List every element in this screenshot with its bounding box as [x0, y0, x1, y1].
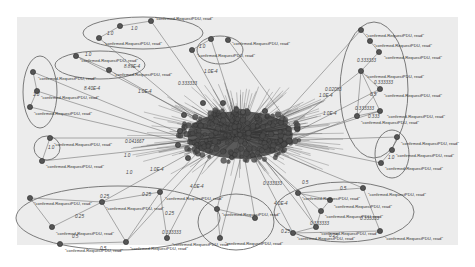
- graph-node[interactable]: [177, 128, 182, 133]
- edge-weight-label: 0.5: [340, 186, 347, 191]
- node-label: "confirmed-RequestPDU, read": [401, 141, 459, 146]
- hub-node: [273, 155, 278, 160]
- graph-node[interactable]: [360, 185, 365, 190]
- hub-node: [275, 139, 279, 143]
- graph-node[interactable]: [208, 36, 213, 41]
- hub-node: [235, 117, 240, 122]
- node-label: "confirmed-RequestPDU, read": [374, 43, 432, 48]
- hub-node: [203, 133, 207, 137]
- hub-node: [206, 144, 210, 148]
- graph-node[interactable]: [117, 23, 122, 28]
- hub-node: [268, 121, 272, 125]
- node-label: "confirmed-RequestPDU, read": [387, 114, 445, 119]
- graph-node[interactable]: [57, 241, 62, 246]
- hub-node: [196, 128, 201, 133]
- edge-weight-label: 1.0: [199, 44, 206, 49]
- graph-node[interactable]: [148, 18, 153, 23]
- hub-node: [220, 149, 226, 155]
- graph-node[interactable]: [262, 108, 267, 113]
- hub-node: [190, 131, 195, 136]
- graph-node[interactable]: [27, 195, 32, 200]
- hub-node: [194, 123, 198, 127]
- node-label: "confirmed-RequestPDU, read": [334, 204, 392, 209]
- edge-weight-label: 0.333333: [360, 216, 380, 221]
- hub-node: [232, 124, 238, 130]
- edge-weight-label: 1.0: [33, 92, 40, 97]
- edge-weight-label: 0.25: [165, 211, 174, 216]
- hub-node: [208, 115, 213, 120]
- graph-node[interactable]: [27, 104, 32, 109]
- graph-node[interactable]: [358, 68, 363, 73]
- graph-node[interactable]: [377, 228, 382, 233]
- hub-node: [232, 130, 237, 135]
- node-label: "confirmed-RequestPDU, read": [38, 76, 96, 81]
- hub-node: [262, 157, 267, 162]
- graph-node[interactable]: [164, 235, 169, 240]
- edge-weight-label: 0.041667: [125, 139, 145, 144]
- graph-node[interactable]: [123, 239, 128, 244]
- graph-node[interactable]: [39, 158, 44, 163]
- graph-node[interactable]: [318, 208, 323, 213]
- hub-node: [240, 155, 244, 159]
- hub-node: [238, 146, 243, 151]
- graph-node[interactable]: [30, 69, 35, 74]
- hub-node: [254, 114, 258, 118]
- edge-weight-label: 8.89E-4: [124, 64, 141, 69]
- node-label: "confirmed-RequestPDU, read": [232, 41, 290, 46]
- hub-node: [184, 131, 190, 137]
- edge-weight-label: 1.0E-4: [150, 167, 164, 172]
- node-label: "confirmed-RequestPDU, read": [54, 142, 112, 147]
- graph-node[interactable]: [220, 100, 225, 105]
- node-label: "confirmed-RequestPDU, read": [297, 236, 355, 241]
- graph-node[interactable]: [181, 112, 186, 117]
- graph-node[interactable]: [295, 190, 300, 195]
- graph-node[interactable]: [377, 86, 382, 91]
- graph-node[interactable]: [240, 109, 245, 114]
- graph-node[interactable]: [200, 100, 205, 105]
- graph-node[interactable]: [73, 53, 78, 58]
- graph-node[interactable]: [394, 134, 399, 139]
- graph-node[interactable]: [290, 230, 295, 235]
- node-label: "confirmed-RequestPDU, read": [104, 41, 162, 46]
- graph-node[interactable]: [377, 108, 382, 113]
- hub-node: [220, 118, 226, 124]
- graph-node[interactable]: [49, 224, 54, 229]
- hub-node: [275, 112, 281, 118]
- graph-node[interactable]: [96, 35, 101, 40]
- graph-node[interactable]: [389, 147, 394, 152]
- edge-weight-label: 0.25: [329, 233, 338, 238]
- graph-node[interactable]: [157, 189, 162, 194]
- edge-weight-label: 0.25: [75, 214, 84, 219]
- graph-node[interactable]: [225, 37, 230, 42]
- graph-node[interactable]: [175, 142, 180, 147]
- node-label: "confirmed-RequestPDU, read": [361, 120, 419, 125]
- graph-node[interactable]: [367, 38, 372, 43]
- hub-node: [257, 155, 262, 160]
- hub-node: [278, 120, 283, 125]
- graph-node[interactable]: [47, 135, 52, 140]
- hub-node: [230, 114, 234, 118]
- graph-node[interactable]: [99, 199, 104, 204]
- hub-node: [226, 122, 230, 126]
- hub-node: [260, 124, 265, 129]
- hub-node: [198, 123, 204, 129]
- graph-node[interactable]: [189, 47, 194, 52]
- graph-node[interactable]: [185, 155, 190, 160]
- node-label: "confirmed-RequestPDU, read": [34, 201, 92, 206]
- graph-node[interactable]: [106, 67, 111, 72]
- edge-weight-label: 0.333333: [162, 230, 182, 235]
- hub-node: [283, 117, 288, 122]
- graph-node[interactable]: [214, 206, 219, 211]
- edge-weight-label: 0.5: [370, 92, 377, 97]
- hub-node: [243, 151, 249, 157]
- graph-node[interactable]: [376, 49, 381, 54]
- edge-weight-label: 4.0E-4: [274, 201, 288, 206]
- hub-node: [251, 157, 257, 163]
- graph-node[interactable]: [378, 160, 383, 165]
- hub-node: [182, 121, 186, 125]
- graph-node[interactable]: [358, 27, 363, 32]
- hub-node: [245, 121, 250, 126]
- graph-node[interactable]: [217, 235, 222, 240]
- node-label: "confirmed-RequestPDU, read": [172, 242, 230, 247]
- graph-node[interactable]: [354, 113, 359, 118]
